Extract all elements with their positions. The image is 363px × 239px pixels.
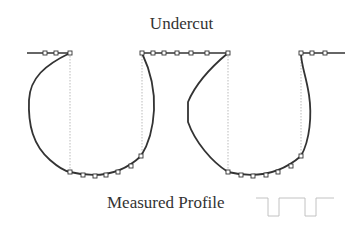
measured-profile-thumbnail-icon [256,198,334,216]
diagram-caption: Measured Profile [107,193,225,213]
profile-markers [43,51,327,178]
profile-curves [29,53,310,175]
guide-lines [70,53,301,172]
